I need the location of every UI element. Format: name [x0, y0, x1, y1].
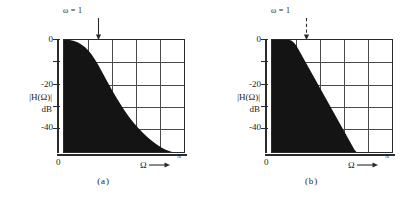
y-tick-m30-a: [53, 106, 60, 107]
omega-label-a: ω = 1: [63, 6, 82, 15]
y-tick-label-m40-a: -40: [41, 122, 53, 132]
y-axis-line-b: [265, 39, 267, 153]
down-arrow-icon-a: [94, 17, 103, 41]
plot-area-a: [63, 39, 185, 153]
omega-annotation-a: ω = 1: [63, 6, 123, 40]
y-tick-m10-a: [53, 61, 60, 62]
y-axis-labels-a: 0 -20 -40 |H(Ω)| dB: [0, 0, 53, 198]
x-axis-symbol-b: Ω: [348, 160, 355, 170]
y-axis-line-a: [57, 39, 59, 153]
y-tick-m10-b: [261, 61, 268, 62]
y-axis-labels-b: 0 -20 -40 |H(Ω)| dB: [208, 0, 261, 198]
x-end-label-a: π: [177, 151, 181, 160]
down-arrow-icon-b: [302, 17, 311, 41]
y-tick-0-b: [261, 39, 268, 40]
panel-a: ω = 1 0 -20 -40 |H(Ω)| dB: [0, 0, 207, 198]
y-tick-m40-a: [53, 128, 60, 129]
x-axis-symbol-a: Ω: [140, 160, 147, 170]
x-origin-label-a: 0: [56, 157, 61, 167]
x-end-label-b: π: [385, 151, 389, 160]
panel-caption-a: (a): [0, 176, 207, 187]
y-tick-m40-b: [261, 128, 268, 129]
x-axis-title-a: Ω: [140, 160, 171, 170]
x-axis-line-b: [265, 154, 395, 156]
y-tick-m20-b: [261, 84, 268, 85]
y-axis-title-b: |H(Ω)|: [210, 92, 260, 103]
y-axis-title-units-a: dB: [2, 104, 52, 115]
omega-annotation-b: ω = 1: [271, 6, 331, 40]
x-axis-title-b: Ω: [348, 160, 379, 170]
y-tick-0-a: [53, 39, 60, 40]
figure-container: ω = 1 0 -20 -40 |H(Ω)| dB: [0, 0, 415, 198]
y-tick-label-m40-b: -40: [249, 122, 261, 132]
panel-caption-b: (b): [208, 176, 415, 187]
shaded-response-region-a: [64, 40, 184, 152]
plot-area-b: [271, 39, 393, 153]
panel-b: ω = 1 0 -20 -40 |H(Ω)| dB: [208, 0, 415, 198]
y-tick-m20-a: [53, 84, 60, 85]
omega-label-b: ω = 1: [271, 6, 290, 15]
right-arrow-icon-b: [357, 161, 379, 169]
shaded-response-region-b: [272, 40, 392, 152]
x-origin-label-b: 0: [264, 157, 269, 167]
y-tick-label-m20-b: -20: [249, 79, 261, 89]
y-tick-m30-b: [261, 106, 268, 107]
y-axis-title-units-b: dB: [210, 104, 260, 115]
y-axis-title-a: |H(Ω)|: [2, 92, 52, 103]
x-axis-line-a: [57, 154, 187, 156]
y-tick-label-m20-a: -20: [41, 79, 53, 89]
right-arrow-icon-a: [149, 161, 171, 169]
